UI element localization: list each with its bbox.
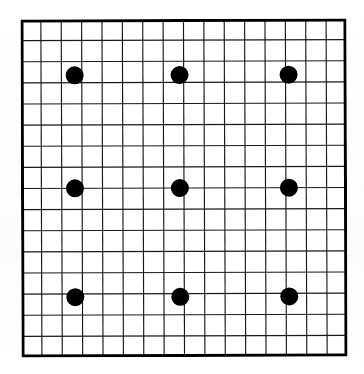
dot-middle-right: [280, 179, 298, 197]
dot-bottom-center: [171, 288, 189, 306]
dot-bottom-right: [280, 287, 298, 305]
dot-top-left: [66, 66, 84, 84]
figure-canvas: [0, 0, 364, 374]
grid-svg: [20, 18, 347, 357]
dot-bottom-left: [66, 288, 84, 306]
dot-top-right: [280, 66, 298, 84]
dot-middle-center: [171, 179, 189, 197]
nine-dot-grid-figure: [21, 19, 347, 357]
dot-middle-left: [66, 179, 84, 197]
dot-top-center: [171, 66, 189, 84]
